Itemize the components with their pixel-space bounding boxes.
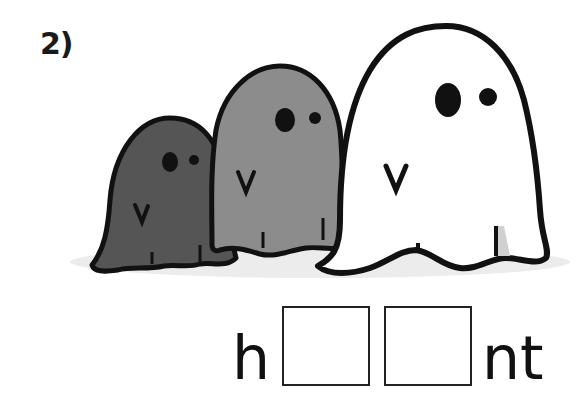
ghosts-illustration [0, 0, 584, 300]
word-suffix: nt [482, 328, 544, 396]
letter-blank-2[interactable] [384, 306, 472, 386]
word-prefix: h [232, 328, 270, 396]
word-puzzle: h nt [232, 300, 544, 396]
ghost-large-icon [318, 26, 547, 273]
ghost-medium-icon [212, 66, 344, 255]
letter-blank-1[interactable] [282, 306, 370, 386]
